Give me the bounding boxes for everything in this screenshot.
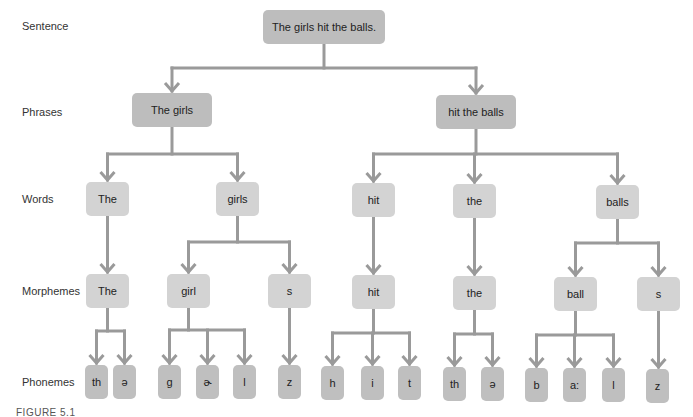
node-phoneme: ə (113, 365, 136, 399)
node-morpheme: hit (352, 275, 395, 309)
node-word: hit (352, 183, 395, 217)
node-phoneme: a: (563, 368, 586, 402)
node-morpheme: s (268, 274, 311, 308)
node-word: girls (216, 182, 259, 216)
node-phoneme: l (602, 368, 625, 402)
node-morpheme: s (637, 277, 680, 311)
node-word: The (86, 182, 129, 216)
node-morpheme: The (86, 274, 129, 308)
node-phoneme: t (398, 366, 421, 400)
node-phoneme: ə (481, 367, 504, 401)
node-word: balls (596, 185, 639, 219)
node-sentence: The girls hit the balls. (263, 10, 385, 44)
figure-caption: FIGURE 5.1 (16, 407, 75, 417)
node-word: the (453, 184, 496, 218)
node-phoneme: l (233, 365, 256, 399)
node-phoneme: i (361, 366, 384, 400)
node-morpheme: ball (554, 277, 597, 311)
node-phoneme: z (278, 365, 301, 399)
node-phoneme: g (158, 365, 181, 399)
node-phoneme: z (646, 369, 669, 403)
node-phrase: hit the balls (436, 95, 516, 129)
node-morpheme: the (453, 276, 496, 310)
node-phoneme: th (443, 367, 466, 401)
node-phoneme: b (525, 368, 548, 402)
node-phoneme: h (321, 366, 344, 400)
node-morpheme: girl (167, 274, 210, 308)
node-phoneme: ɚ (196, 365, 219, 399)
node-phrase: The girls (132, 93, 212, 127)
node-phoneme: th (85, 365, 108, 399)
